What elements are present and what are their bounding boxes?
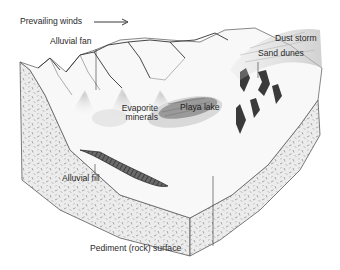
label-sand-dunes: Sand dunes: [258, 49, 304, 58]
label-evaporite-line2: minerals: [110, 113, 158, 122]
label-dust-storm: Dust storm: [275, 34, 317, 43]
label-playa-lake: Playa lake: [180, 103, 220, 112]
label-prevailing-winds: Prevailing winds: [20, 17, 82, 26]
desert-block-diagram: Prevailing winds Alluvial fan Evaporite …: [0, 0, 340, 270]
wind-arrow: [94, 19, 128, 25]
label-evaporite-minerals: Evaporite minerals: [110, 104, 158, 122]
label-alluvial-fill: Alluvial fill: [62, 174, 100, 183]
label-alluvial-fan: Alluvial fan: [50, 37, 92, 46]
label-pediment-surface: Pediment (rock) surface: [90, 244, 181, 253]
